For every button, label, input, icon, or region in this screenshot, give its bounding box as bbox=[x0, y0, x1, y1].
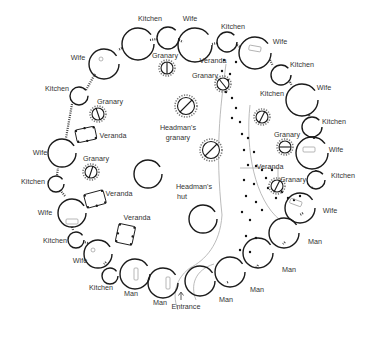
label-man: Man bbox=[153, 298, 167, 307]
label-granary: Granary bbox=[152, 51, 178, 60]
label-kitchen: Kitchen bbox=[260, 89, 284, 98]
granary-icon bbox=[254, 109, 270, 125]
label-kitchen: Kitchen bbox=[21, 177, 45, 186]
label-headmans-granary: granary bbox=[166, 133, 191, 142]
hut-circle bbox=[215, 257, 245, 287]
label-man: Man bbox=[124, 289, 138, 298]
label-headmans-hut: Headman's bbox=[176, 182, 213, 191]
hut-circle bbox=[84, 240, 112, 268]
hut-circle bbox=[269, 218, 299, 248]
label-granary: Granary bbox=[274, 130, 300, 139]
label-granary: Granary bbox=[83, 154, 109, 163]
entrance-arrow-icon bbox=[179, 292, 184, 300]
hut-circle bbox=[70, 87, 88, 105]
label-wife: Wife bbox=[329, 145, 343, 154]
label-kitchen: Kitchen bbox=[322, 117, 346, 126]
label-wife: Wife bbox=[71, 53, 85, 62]
label-veranda: Veranda bbox=[124, 213, 151, 222]
hut-circle bbox=[296, 137, 328, 169]
hut-circle bbox=[58, 199, 86, 227]
hut-circle bbox=[185, 266, 215, 296]
label-veranda: Veranda bbox=[106, 189, 133, 198]
label-wife: Wife bbox=[183, 14, 197, 23]
label-granary: Granary bbox=[97, 97, 123, 106]
hut-circle bbox=[148, 268, 178, 298]
label-kitchen: Kitchen bbox=[290, 60, 314, 69]
hut-circle bbox=[157, 27, 179, 49]
label-headmans-hut: hut bbox=[177, 192, 187, 201]
veranda-shape bbox=[83, 189, 107, 209]
label-man: Man bbox=[282, 265, 296, 274]
headmans-granary-icon bbox=[175, 95, 197, 117]
hut-circle bbox=[89, 49, 119, 79]
hut-circle bbox=[271, 65, 291, 85]
yard-posts bbox=[221, 59, 301, 253]
hut-circle bbox=[122, 28, 154, 60]
label-veranda: Veranda bbox=[100, 131, 127, 140]
granary-icon bbox=[83, 164, 99, 180]
label-kitchen: Kitchen bbox=[45, 84, 69, 93]
label-wife: Wife bbox=[38, 208, 52, 217]
label-entrance: Entrance bbox=[172, 302, 201, 311]
granary-icon bbox=[90, 106, 106, 122]
label-kitchen: Kitchen bbox=[43, 236, 67, 245]
label-man: Man bbox=[250, 285, 264, 294]
veranda-shape bbox=[115, 223, 136, 246]
hut-circle bbox=[134, 160, 162, 188]
granary-icon bbox=[277, 139, 293, 155]
headmans-granary-icon bbox=[200, 139, 222, 161]
hut-circle bbox=[189, 205, 217, 233]
label-wife: Wife bbox=[273, 37, 287, 46]
labels: Kitchen Wife Kitchen Granary Wife Verand… bbox=[21, 14, 355, 311]
hut-circle bbox=[302, 117, 322, 137]
label-veranda: Veranda bbox=[257, 162, 284, 171]
granary-icon bbox=[159, 60, 175, 76]
label-wife: Wife bbox=[317, 83, 331, 92]
hut-circle bbox=[239, 37, 271, 69]
hut-circle bbox=[217, 32, 237, 52]
hut-circle bbox=[286, 84, 318, 116]
label-wife: Wife bbox=[323, 206, 337, 215]
hut-circle bbox=[243, 238, 273, 268]
label-kitchen: Kitchen bbox=[331, 171, 355, 180]
label-man: Man bbox=[308, 237, 322, 246]
label-granary: Granary bbox=[280, 175, 306, 184]
hut-circle bbox=[48, 176, 64, 192]
label-wife: Wife bbox=[73, 256, 87, 265]
veranda-shape bbox=[74, 125, 97, 144]
hut-circle bbox=[48, 139, 76, 167]
label-kitchen: Kitchen bbox=[138, 14, 162, 23]
label-kitchen: Kitchen bbox=[89, 283, 113, 292]
compound-diagram: Kitchen Wife Kitchen Granary Wife Verand… bbox=[0, 0, 375, 341]
hut-circle bbox=[307, 171, 325, 189]
label-headmans-granary: Headman's bbox=[160, 123, 197, 132]
label-man: Man bbox=[219, 295, 233, 304]
label-veranda: Veranda bbox=[200, 56, 227, 65]
hut-circle bbox=[120, 259, 150, 289]
verandas bbox=[74, 125, 136, 246]
label-wife: Wife bbox=[33, 148, 47, 157]
hut-circle bbox=[68, 232, 84, 248]
label-kitchen: Kitchen bbox=[221, 22, 245, 31]
hut-circle bbox=[102, 268, 118, 284]
label-granary: Granary bbox=[192, 71, 218, 80]
